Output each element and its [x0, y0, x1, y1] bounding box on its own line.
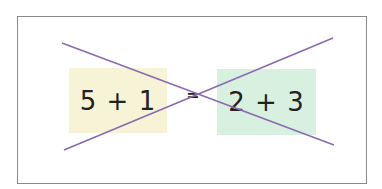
- right-expression-box: 2 + 3: [217, 69, 316, 135]
- left-expression-box: 5 + 1: [69, 68, 167, 133]
- left-expression: 5 + 1: [80, 86, 156, 116]
- equals-sign: =: [184, 84, 202, 104]
- right-expression: 2 + 3: [228, 87, 304, 117]
